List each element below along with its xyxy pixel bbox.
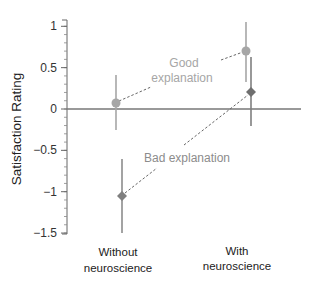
label-good-line2: explanation	[151, 71, 212, 85]
y-tick-label: 1	[50, 19, 57, 33]
leader-bad-with	[184, 95, 248, 145]
y-tick-label: −1.5	[33, 226, 57, 240]
leader-bad-without	[125, 168, 157, 193]
y-tick-label: −1	[43, 185, 57, 199]
y-tick-label: −0.5	[33, 143, 57, 157]
series-good-explanation: Good explanation	[112, 22, 251, 130]
marker-good-with	[242, 47, 251, 56]
y-axis-title: Satisfaction Rating	[9, 73, 24, 186]
category-with-line1: With	[226, 245, 249, 257]
label-bad: Bad explanation	[144, 151, 230, 165]
category-without-line1: Without	[99, 246, 139, 258]
marker-bad-with	[246, 87, 256, 97]
y-tick-label: 0.5	[40, 61, 57, 75]
x-category-labels: Without neuroscience With neuroscience	[84, 245, 271, 274]
marker-good-without	[112, 99, 121, 108]
label-good-line1: Good	[169, 56, 198, 70]
y-axis: 10.50−0.5−1−1.5	[33, 19, 67, 240]
category-with-line2: neuroscience	[203, 260, 271, 272]
chart: Satisfaction Rating 10.50−0.5−1−1.5 Good…	[0, 0, 311, 283]
y-major-ticks: 10.50−0.5−1−1.5	[33, 19, 67, 240]
y-tick-label: 0	[50, 102, 57, 116]
category-without-line2: neuroscience	[84, 262, 152, 274]
leader-good-without	[119, 87, 151, 101]
leader-good-with	[221, 52, 243, 60]
